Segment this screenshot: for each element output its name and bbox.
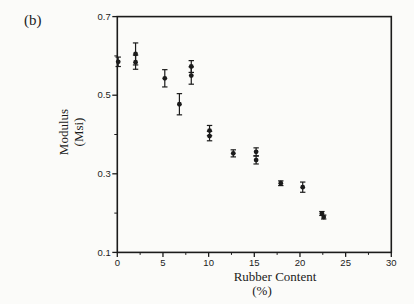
y-tick-label: 0.7 bbox=[98, 11, 111, 22]
y-tick-label: 0.3 bbox=[98, 168, 111, 179]
data-point bbox=[162, 76, 167, 81]
data-point bbox=[231, 151, 236, 156]
x-axis-title-line2: (%) bbox=[187, 284, 337, 298]
data-point bbox=[254, 158, 259, 163]
data-point bbox=[278, 181, 283, 186]
x-tick-label: 25 bbox=[340, 257, 351, 268]
x-tick-label: 0 bbox=[115, 257, 120, 268]
x-tick-label: 20 bbox=[295, 257, 306, 268]
x-axis-title: Rubber Content (%) bbox=[200, 270, 350, 298]
plot-frame bbox=[117, 17, 391, 253]
y-axis-title-line1: Modulus bbox=[56, 77, 71, 187]
data-point bbox=[207, 134, 212, 139]
x-tick-label: 5 bbox=[160, 257, 165, 268]
x-tick-label: 10 bbox=[203, 257, 214, 268]
y-tick-label: 0.1 bbox=[98, 247, 111, 258]
y-axis-title: Modulus (Msi) bbox=[56, 77, 90, 187]
data-point bbox=[254, 149, 259, 154]
figure-panel: (b) 0510152025300.70.50.30.1 Modulus (Ms… bbox=[0, 0, 414, 304]
data-point bbox=[116, 59, 121, 64]
data-point bbox=[300, 185, 305, 190]
x-tick-label: 15 bbox=[249, 257, 260, 268]
data-point bbox=[177, 102, 182, 107]
x-axis-title-line1: Rubber Content bbox=[200, 270, 350, 284]
data-point bbox=[189, 73, 194, 78]
y-tick-label: 0.5 bbox=[98, 89, 111, 100]
data-point bbox=[321, 215, 326, 220]
data-point bbox=[133, 60, 138, 65]
x-tick-label: 30 bbox=[386, 257, 397, 268]
y-axis-title-line2: (Msi) bbox=[71, 77, 86, 187]
